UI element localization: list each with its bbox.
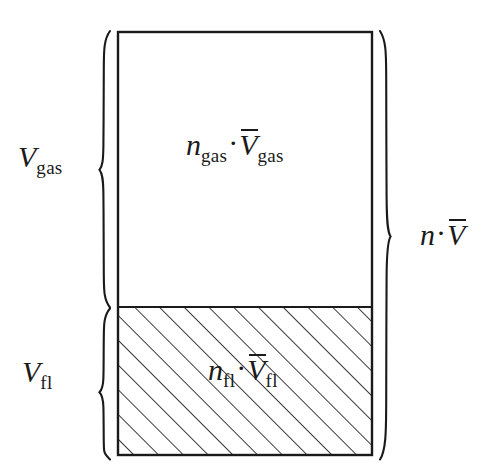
total-multiplication-operator: · — [435, 216, 447, 249]
gas-amount-subscript: gas — [201, 145, 227, 166]
brace-left-fluid — [100, 309, 111, 460]
label-volume-gas-subscript: gas — [36, 157, 62, 178]
gas-multiplication-operator: · — [227, 126, 239, 159]
fluid-molar-volume-subscript: fl — [266, 370, 278, 391]
brace-left-gas — [100, 31, 111, 308]
label-volume-fluid: Vfl — [22, 357, 53, 387]
label-volume-fluid-subscript: fl — [40, 372, 52, 393]
label-total-volume-expression: n·V — [420, 220, 465, 250]
gas-molar-volume-symbol: V — [239, 128, 257, 161]
label-fluid-interior-expression: nfl·Vfl — [208, 355, 278, 385]
fluid-molar-volume-symbol: V — [247, 353, 265, 386]
label-volume-fluid-symbol: V — [22, 355, 40, 388]
gas-phase-region — [118, 32, 372, 307]
total-molar-volume-overbar — [449, 219, 466, 221]
fluid-multiplication-operator: · — [235, 351, 247, 384]
fluid-amount-symbol: n — [208, 353, 223, 386]
gas-molar-volume-subscript: gas — [258, 145, 284, 166]
brace-right-total — [380, 31, 391, 460]
gas-molar-volume-overbar — [241, 129, 258, 131]
label-volume-gas-symbol: V — [18, 140, 36, 173]
fluid-molar-volume-overbar — [249, 354, 266, 356]
label-volume-gas: Vgas — [18, 142, 63, 172]
gas-amount-symbol: n — [186, 128, 201, 161]
total-molar-volume-symbol: V — [447, 218, 465, 251]
volume-additivity-figure: Vgas Vfl ngas·Vgas nfl·Vfl n·V — [0, 0, 496, 475]
label-gas-interior-expression: ngas·Vgas — [186, 130, 284, 160]
fluid-amount-subscript: fl — [223, 370, 235, 391]
total-amount-symbol: n — [420, 218, 435, 251]
